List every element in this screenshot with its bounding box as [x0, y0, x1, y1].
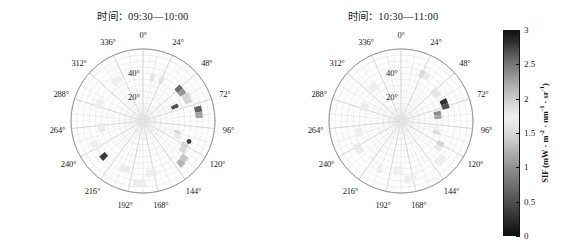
panel-left-title: 时间：09:30—10:00 [0, 8, 286, 23]
polar-plot-left: 0°24°48°72°96°120°144°168°192°216°240°26… [58, 36, 228, 206]
radial-tick-label: 20° [128, 92, 140, 102]
azimuth-tick-label: 96° [481, 125, 492, 135]
azimuth-tick-label: 240° [319, 159, 334, 169]
azimuth-tick-label: 24° [430, 37, 441, 47]
azimuth-tick-label: 144° [444, 186, 459, 196]
sif-cell [404, 176, 411, 184]
polar-grid-spoke-minor [401, 121, 455, 169]
azimuth-tick-label: 120° [210, 159, 225, 169]
colorbar-tick-mark [516, 30, 520, 31]
colorbar-tick-mark [516, 167, 520, 168]
polar-grid-spoke-minor [335, 121, 401, 150]
sif-cell [398, 167, 404, 174]
azimuth-tick-label: 24° [172, 37, 183, 47]
colorbar-tick-mark [516, 99, 520, 100]
polar-plot-right: 0°24°48°72°96°120°144°168°192°216°240°26… [316, 36, 486, 206]
azimuth-tick-label: 312° [329, 58, 344, 68]
azimuth-tick-label: 336° [100, 37, 115, 47]
azimuth-tick-label: 264° [308, 125, 323, 135]
azimuth-tick-label: 168° [153, 200, 168, 210]
colorbar-tick-label: 2.5 [524, 59, 535, 69]
colorbar-label-mid2: · sr [540, 91, 550, 105]
sif-cell [410, 174, 418, 182]
azimuth-tick-label: 144° [186, 186, 201, 196]
radial-tick-label: 40° [128, 68, 140, 78]
azimuth-tick-label: 216° [85, 186, 100, 196]
sif-colorbar: 32.521.510.50 SIF (mW · m-2 · nm-1 · sr-… [500, 30, 572, 236]
sif-cell [393, 166, 399, 174]
azimuth-tick-label: 216° [343, 186, 358, 196]
sif-cell [133, 179, 140, 187]
sif-cell [195, 112, 203, 119]
azimuth-tick-label: 72° [477, 89, 488, 99]
azimuth-tick-label: 120° [468, 159, 483, 169]
polar-grid-spoke-minor [401, 121, 467, 150]
azimuth-tick-label: 288° [312, 89, 327, 99]
colorbar-label-main: SIF (mW · m [540, 135, 550, 182]
colorbar-tick-label: 1.5 [524, 128, 535, 138]
polar-grid-spoke-minor [143, 55, 172, 121]
colorbar-exp-3: -1 [538, 86, 545, 91]
azimuth-tick-label: 288° [54, 89, 69, 99]
hotspot-marker [187, 139, 192, 144]
polar-panel-right: 时间：10:30—11:00 0°24°48°72°96°120°144°168… [278, 0, 508, 249]
colorbar-tick-label: 2 [524, 94, 529, 104]
azimuth-tick-label: 0° [397, 30, 404, 40]
colorbar-tick-mark [516, 133, 520, 134]
colorbar-tick-label: 0.5 [524, 197, 535, 207]
colorbar-tick-label: 0 [524, 231, 529, 241]
azimuth-tick-label: 0° [139, 30, 146, 40]
panel-right-title: 时间：10:30—11:00 [278, 8, 508, 23]
sif-polar-figure: 时间：09:30—10:00 0°24°48°72°96°120°144°168… [0, 0, 572, 249]
colorbar-exp-1: -2 [538, 130, 545, 135]
azimuth-tick-label: 72° [219, 89, 230, 99]
colorbar-tick-mark [516, 236, 520, 237]
azimuth-tick-label: 168° [411, 200, 426, 210]
azimuth-tick-label: 96° [223, 125, 234, 135]
polar-grid-spoke-minor [75, 99, 143, 121]
azimuth-tick-label: 312° [71, 58, 86, 68]
colorbar-tick-label: 1 [524, 162, 529, 172]
azimuth-tick-label: 264° [50, 125, 65, 135]
sif-cell [140, 180, 147, 187]
colorbar-label-tail: ) [540, 83, 550, 86]
colorbar-exp-2: -1 [538, 106, 545, 111]
radial-tick-label: 40° [386, 68, 398, 78]
polar-grid-spoke-minor [372, 121, 401, 187]
colorbar-label-mid1: · nm [540, 111, 550, 130]
polar-grid-spoke-minor [401, 73, 455, 121]
radial-tick-label: 20° [386, 92, 398, 102]
polar-grid-spoke-minor [114, 55, 143, 121]
polar-panel-left: 时间：09:30—10:00 0°24°48°72°96°120°144°168… [0, 0, 286, 249]
azimuth-tick-label: 240° [61, 159, 76, 169]
azimuth-tick-label: 192° [117, 200, 132, 210]
azimuth-tick-label: 48° [201, 58, 212, 68]
polar-grid-spoke-minor [77, 121, 143, 150]
sif-cell [375, 165, 383, 174]
colorbar-tick-label: 3 [524, 25, 529, 35]
azimuth-tick-label: 336° [358, 37, 373, 47]
colorbar-tick-mark [516, 64, 520, 65]
colorbar-tick-mark [516, 202, 520, 203]
polar-grid-spoke-minor [114, 121, 143, 187]
colorbar-axis-label: SIF (mW · m-2 · nm-1 · sr-1) [538, 83, 550, 183]
azimuth-tick-label: 48° [459, 58, 470, 68]
sif-cell [151, 169, 158, 177]
azimuth-tick-label: 192° [375, 200, 390, 210]
polar-grid-spoke-minor [401, 55, 430, 121]
